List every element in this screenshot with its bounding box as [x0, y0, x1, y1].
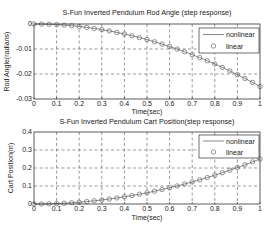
legend-label-linear: linear	[226, 149, 244, 156]
chart-title: S-Fun Inverted Pendulum Rod Angle (step …	[62, 8, 231, 17]
y-tick-label: 0.2	[22, 164, 32, 171]
x-tick-label: 0.8	[210, 100, 220, 107]
y-tick-label: -0.01	[16, 45, 32, 52]
x-tick-label: 0.2	[74, 205, 84, 212]
x-tick-label: 0.9	[233, 100, 243, 107]
legend: nonlinear linear	[199, 28, 259, 53]
chart-title: S-Fun Inverted Pendulum Cart Position(st…	[60, 117, 235, 126]
x-tick-labels: 00.10.20.30.40.50.60.70.80.91	[32, 205, 262, 212]
x-tick-label: 0	[32, 205, 36, 212]
x-axis-label: Time(sec)	[132, 214, 163, 222]
x-tick-label: 0.4	[120, 100, 130, 107]
y-axis-label: Rod Angle(radians)	[3, 32, 11, 92]
y-tick-label: 0.1	[22, 182, 32, 189]
y-axis-label: Cart Position(m)	[7, 143, 15, 194]
x-tick-label: 0.5	[142, 100, 152, 107]
x-tick-label: 0.7	[187, 100, 197, 107]
legend-label-nonlinear: nonlinear	[226, 31, 255, 38]
x-tick-label: 1	[258, 205, 262, 212]
x-tick-label: 0.8	[210, 205, 220, 212]
x-tick-label: 0.6	[165, 100, 175, 107]
x-tick-label: 0.4	[120, 205, 130, 212]
legend-label-linear: linear	[226, 43, 244, 50]
x-tick-label: 0.1	[52, 205, 62, 212]
x-tick-label: 0.2	[74, 100, 84, 107]
x-tick-labels: 00.10.20.30.40.50.60.70.80.91	[32, 100, 262, 107]
x-axis-label: Time(sec)	[132, 108, 163, 116]
x-tick-label: 1	[258, 100, 262, 107]
y-tick-label: 0.4	[22, 128, 32, 135]
x-tick-label: 0.5	[142, 205, 152, 212]
x-tick-label: 0.6	[165, 205, 175, 212]
y-tick-labels: 00.10.20.30.4	[22, 128, 32, 207]
cart-position-chart: S-Fun Inverted Pendulum Cart Position(st…	[7, 117, 262, 222]
x-tick-label: 0	[32, 100, 36, 107]
y-tick-labels: 0-0.01-0.02-0.03	[16, 20, 32, 102]
y-tick-label: -0.02	[16, 70, 32, 77]
x-tick-label: 0.7	[187, 205, 197, 212]
y-tick-label: 0.3	[22, 146, 32, 153]
x-tick-label: 0.9	[233, 205, 243, 212]
rod-angle-chart: S-Fun Inverted Pendulum Rod Angle (step …	[3, 8, 262, 116]
y-tick-label: -0.03	[16, 95, 32, 102]
legend: nonlinear linear	[199, 135, 259, 158]
y-tick-label: 0	[28, 20, 32, 27]
figure: S-Fun Inverted Pendulum Rod Angle (step …	[0, 0, 274, 235]
x-tick-label: 0.3	[97, 205, 107, 212]
y-tick-label: 0	[28, 200, 32, 207]
legend-label-nonlinear: nonlinear	[226, 138, 255, 145]
x-tick-label: 0.1	[52, 100, 62, 107]
x-tick-label: 0.3	[97, 100, 107, 107]
